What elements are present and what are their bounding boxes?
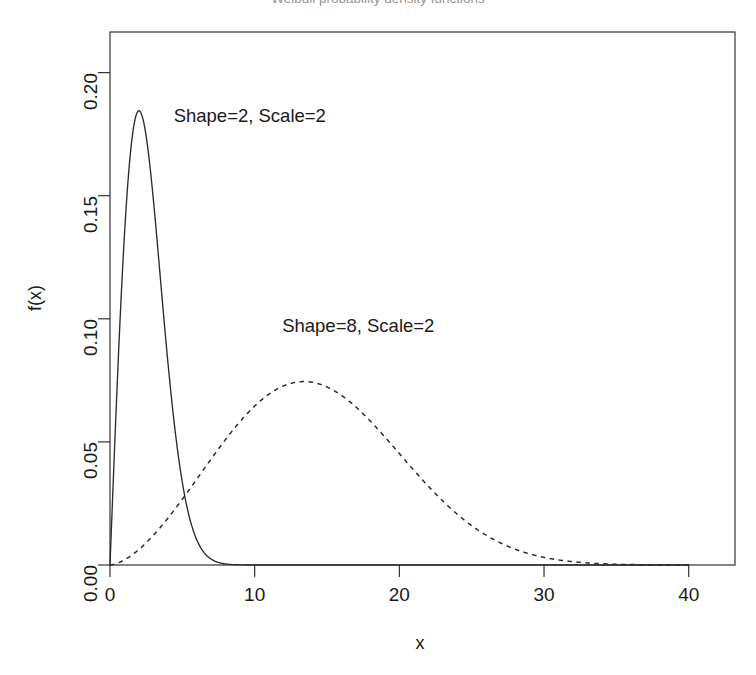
x-tick-label: 10 [244, 584, 265, 606]
plot-canvas [0, 0, 756, 675]
x-tick-label: 30 [533, 584, 554, 606]
chart-figure: Weibull probability density functions 01… [0, 0, 756, 675]
y-tick-label: 0.15 [80, 196, 102, 233]
curve-annotation-1: Shape=2, Scale=2 [174, 105, 326, 127]
curve-shape-8-scale-2 [110, 382, 689, 565]
x-tick-label: 40 [678, 584, 699, 606]
y-tick-label: 0.20 [80, 73, 102, 110]
data-curves [110, 111, 689, 565]
x-tick-label: 0 [105, 584, 116, 606]
y-tick-label: 0.10 [80, 319, 102, 356]
curve-shape-2-scale-2 [110, 111, 689, 565]
curve-annotation-2: Shape=8, Scale=2 [282, 315, 434, 337]
y-tick-label: 0.05 [80, 442, 102, 479]
y-axis-title: f(x) [25, 285, 46, 311]
x-axis-title: x [416, 633, 425, 654]
x-axis-tick-marks [110, 565, 689, 577]
x-tick-label: 20 [389, 584, 410, 606]
y-tick-label: 0.00 [80, 565, 102, 602]
